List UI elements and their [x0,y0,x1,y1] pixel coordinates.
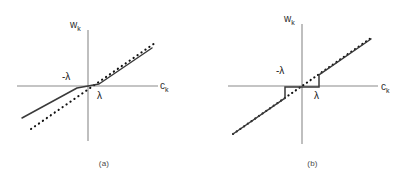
x-axis-label: ck [381,81,390,94]
positive-lambda-label: λ [97,90,102,101]
y-axis-label: wk [69,19,81,32]
thresholding-functions-figure: wk ck -λ λ (a) wk [0,0,417,176]
panel-b-caption: (b) [208,159,417,168]
soft-threshold-curve [22,48,152,118]
panel-a-plot: wk ck -λ λ [0,0,208,176]
panel-b-plot: wk ck -λ λ [208,0,417,176]
x-axis-label: ck [160,80,169,93]
negative-lambda-label: -λ [276,65,284,76]
panel-b: wk ck -λ λ (b) [208,0,417,176]
negative-lambda-label: -λ [62,71,70,82]
panel-a-caption: (a) [0,159,208,168]
panel-a: wk ck -λ λ (a) [0,0,208,176]
y-axis-label: wk [283,13,295,26]
positive-lambda-label: λ [314,90,319,101]
